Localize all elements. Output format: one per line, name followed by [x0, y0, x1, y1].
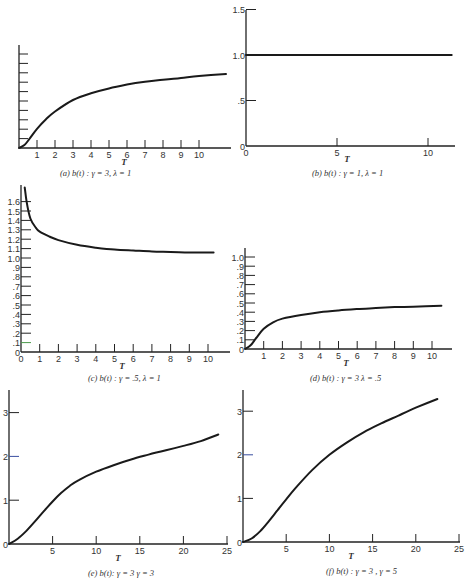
x-tick-label: 20	[411, 544, 421, 554]
x-axis-title: T	[344, 154, 350, 164]
y-tick-label: 1.4	[7, 216, 20, 226]
x-tick-label: 1	[34, 150, 39, 160]
x-tick-label: 8	[392, 351, 397, 361]
x-axis-title: T	[343, 358, 349, 368]
x-tick-label: 9	[187, 354, 192, 364]
y-tick-label: 1.5	[7, 207, 20, 217]
x-tick-label: 7	[373, 351, 378, 361]
x-tick-label: 8	[160, 150, 165, 160]
y-tick-label: 1.0	[232, 51, 245, 61]
x-tick-label: 10	[427, 351, 437, 361]
x-tick-label: 25	[222, 546, 232, 556]
x-tick-label: 9	[178, 150, 183, 160]
chart-panel-d: 123456789100.1.2.3.4.5.6.7.8.91.0T(d) b(…	[231, 248, 452, 383]
y-tick-label: .7	[12, 282, 20, 292]
x-tick-label: 4	[317, 351, 322, 361]
y-tick-label: 0	[3, 540, 8, 550]
y-tick-label: .7	[236, 280, 244, 290]
data-curve	[245, 306, 441, 349]
y-tick-label: 1.2	[7, 235, 20, 245]
x-tick-label: 10	[194, 150, 204, 160]
x-tick-label: 15	[135, 546, 145, 556]
panel-caption: (f) b(t) : γ = 3 , γ = 5	[326, 566, 397, 576]
panel-caption: (d) b(t) : γ = 3 λ = .5	[310, 373, 381, 383]
y-tick-label: .6	[236, 289, 244, 299]
x-tick-label: 5	[50, 546, 55, 556]
x-tick-label: 9	[411, 351, 416, 361]
y-tick-label: 0	[240, 142, 245, 152]
y-tick-label: 0	[15, 348, 20, 358]
y-tick-label: .5	[12, 301, 20, 311]
x-tick-label: 5	[284, 544, 289, 554]
y-tick-label: .5	[236, 299, 244, 309]
x-tick-label: 6	[355, 351, 360, 361]
x-tick-label: 10	[324, 544, 334, 554]
panel-caption: (a) b(t) : γ = 3, λ = 1	[60, 168, 131, 178]
y-tick-label: 1	[237, 494, 242, 504]
panel-caption: (b) b(t) : γ = 1, λ = 1	[312, 168, 383, 178]
x-tick-label: 7	[142, 150, 147, 160]
figure-grid: 12345678910T(a) b(t) : γ = 3, λ = 105100…	[0, 0, 465, 582]
x-axis-title: T	[121, 157, 127, 167]
x-tick-label: 1	[37, 354, 42, 364]
y-tick-label: 2	[3, 452, 8, 462]
panel-caption: (c) b(t) : γ = .5, λ = 1	[88, 373, 161, 383]
y-tick-label: 0	[239, 345, 244, 355]
y-tick-label: .5	[237, 96, 245, 106]
x-axis-title: T	[348, 551, 354, 561]
panel-caption: (e) b(t): γ = 3 γ = 3	[88, 568, 154, 578]
y-tick-label: 1.3	[7, 225, 20, 235]
x-tick-label: 10	[91, 546, 101, 556]
x-tick-label: 2	[56, 354, 61, 364]
y-tick-label: .1	[12, 338, 20, 348]
y-tick-label: 3	[3, 408, 8, 418]
x-tick-label: 10	[203, 354, 213, 364]
x-tick-label: 4	[93, 354, 98, 364]
x-tick-label: 2	[280, 351, 285, 361]
chart-panel-b: 05100.51.01.5T(b) b(t) : γ = 1, λ = 1	[232, 5, 455, 178]
y-tick-label: 1	[3, 496, 8, 506]
chart-panel-f: 5101520250123T(f) b(t) : γ = 3 , γ = 5	[237, 390, 464, 576]
y-tick-label: .1	[236, 335, 244, 345]
x-tick-label: 2	[52, 150, 57, 160]
data-curve	[19, 74, 226, 148]
x-tick-label: 4	[88, 150, 93, 160]
data-curve	[25, 188, 214, 253]
y-tick-label: .2	[236, 326, 244, 336]
x-tick-label: 5	[112, 354, 117, 364]
data-curve	[9, 435, 218, 545]
x-tick-label: 7	[149, 354, 154, 364]
chart-panel-c: 0123456789100.1.2.3.4.5.6.7.8.91.01.11.2…	[7, 185, 230, 383]
x-tick-label: 10	[423, 148, 433, 158]
x-tick-label: 8	[168, 354, 173, 364]
y-tick-label: 1.0	[7, 254, 20, 264]
y-tick-label: .8	[236, 271, 244, 281]
x-tick-label: 15	[368, 544, 378, 554]
x-axis-title: T	[115, 553, 121, 563]
y-tick-label: 3	[237, 407, 242, 417]
y-tick-label: .6	[12, 291, 20, 301]
x-tick-label: 3	[70, 150, 75, 160]
y-tick-label: .9	[12, 263, 20, 273]
y-tick-label: 1.1	[7, 244, 20, 254]
x-tick-label: 5	[334, 148, 339, 158]
x-tick-label: 3	[299, 351, 304, 361]
y-tick-label: .4	[12, 310, 20, 320]
y-tick-label: .3	[12, 319, 20, 329]
y-tick-label: .4	[236, 308, 244, 318]
x-tick-label: 6	[131, 354, 136, 364]
y-tick-label: 1.5	[232, 5, 245, 15]
x-tick-label: 5	[336, 351, 341, 361]
y-tick-label: 0	[237, 538, 242, 548]
y-tick-label: 2	[237, 450, 242, 460]
x-tick-label: 20	[178, 546, 188, 556]
y-tick-label: 1.0	[231, 253, 244, 263]
chart-panel-e: 5101520250123T(e) b(t): γ = 3 γ = 3	[3, 390, 232, 578]
x-axis-title: T	[119, 361, 125, 371]
x-tick-label: 25	[454, 544, 464, 554]
y-tick-label: .8	[12, 272, 20, 282]
x-tick-label: 5	[106, 150, 111, 160]
y-tick-label: .3	[236, 317, 244, 327]
x-tick-label: 3	[75, 354, 80, 364]
y-tick-label: 1.6	[7, 197, 20, 207]
